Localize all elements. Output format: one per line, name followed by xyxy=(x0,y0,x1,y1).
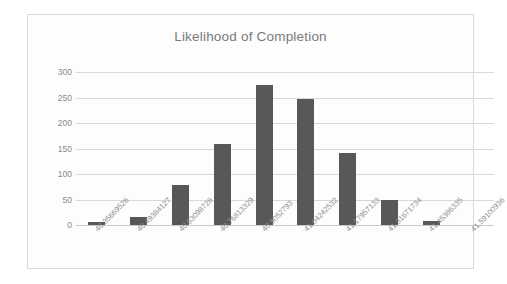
y-axis-tick-label: 50 xyxy=(63,195,72,205)
bar[interactable] xyxy=(297,99,314,225)
y-axis-tick-label: 250 xyxy=(58,93,72,103)
y-axis-tick-label: 0 xyxy=(67,220,72,230)
y-axis-tick-label: 200 xyxy=(58,118,72,128)
y-axis-tick-label: 100 xyxy=(58,169,72,179)
chart-frame: Likelihood of Completion 050100150200250… xyxy=(27,14,474,269)
bar[interactable] xyxy=(256,85,273,225)
x-axis-tick-label: 41.59100936 xyxy=(469,227,475,233)
x-axis: 40.3566952640.4938412740.6309872840.7681… xyxy=(76,227,494,284)
y-axis-tick-label: 150 xyxy=(58,144,72,154)
x-axis-tick-label: 40.49384127 xyxy=(135,227,141,233)
x-axis-tick-label: 40.35669526 xyxy=(93,227,99,233)
y-axis-tick-label: 300 xyxy=(58,67,72,77)
x-axis-tick-label: 40.9052793 xyxy=(260,227,266,233)
x-axis-tick-label: 40.76813329 xyxy=(218,227,224,233)
bar[interactable] xyxy=(339,153,356,225)
bar[interactable] xyxy=(214,144,231,225)
chart-title: Likelihood of Completion xyxy=(28,29,473,44)
x-axis-tick-label: 41.04242532 xyxy=(302,227,308,233)
x-axis-tick-label: 41.45386335 xyxy=(427,227,433,233)
y-axis: 050100150200250300 xyxy=(42,72,72,225)
x-axis-tick-label: 41.31671734 xyxy=(386,227,392,233)
x-axis-tick-label: 41.17957133 xyxy=(344,227,350,233)
x-axis-tick-label: 40.63098728 xyxy=(177,227,183,233)
